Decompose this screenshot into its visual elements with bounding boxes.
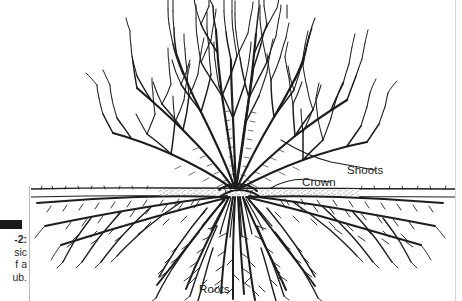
caption-line-1: -2: bbox=[0, 233, 27, 246]
figure-right-border bbox=[455, 0, 456, 301]
shrub-illustration bbox=[31, 0, 456, 301]
label-shoots: Shoots bbox=[347, 164, 383, 176]
label-roots: Roots bbox=[199, 283, 230, 295]
label-crown: Crown bbox=[302, 176, 336, 188]
roots-medium bbox=[63, 202, 411, 301]
caption-line-3: f a bbox=[0, 258, 27, 271]
shrub-drawing-svg bbox=[31, 0, 456, 301]
figure-caption-text: -2: sic f a ub. bbox=[0, 233, 27, 283]
shoots-outer-fringe bbox=[86, 0, 397, 98]
caption-line-4: ub. bbox=[0, 271, 27, 284]
figure-caption-column: -2: sic f a ub. bbox=[0, 0, 31, 301]
roots-descending bbox=[157, 197, 315, 300]
shoots-secondary bbox=[103, 6, 379, 160]
shoots-group bbox=[113, 30, 367, 189]
caption-divider-rule bbox=[29, 186, 30, 301]
caption-black-bar bbox=[0, 220, 22, 229]
figure-page: -2: sic f a ub. bbox=[0, 0, 462, 301]
caption-line-2: sic bbox=[0, 246, 27, 259]
